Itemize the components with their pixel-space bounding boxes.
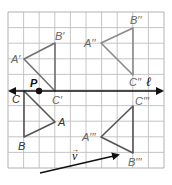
label-A-double-prime: A′′ bbox=[83, 37, 96, 49]
label-B: B bbox=[18, 140, 25, 152]
label-C-double-prime: C′′ bbox=[129, 76, 142, 88]
label-C-prime: C′ bbox=[52, 94, 63, 106]
transformation-diagram: ℓ P v → A B C A′ B′ C′ A′′ B′′ C′′ A′′′ … bbox=[0, 0, 172, 185]
label-C-triple-prime: C′′′ bbox=[135, 95, 150, 107]
label-A: A bbox=[57, 116, 65, 128]
label-B-triple-prime: B′′′ bbox=[128, 156, 142, 168]
label-B-double-prime: B′′ bbox=[130, 14, 142, 26]
coordinate-grid bbox=[8, 12, 164, 168]
label-A-triple-prime: A′′′ bbox=[81, 131, 96, 143]
vector-arrow-glyph: → bbox=[71, 145, 79, 154]
label-B-prime: B′ bbox=[55, 30, 65, 42]
point-p-label: P bbox=[30, 77, 38, 89]
label-C: C bbox=[12, 93, 20, 105]
translation-vector-v bbox=[40, 155, 118, 173]
label-A-prime: A′ bbox=[10, 53, 21, 65]
line-l-label: ℓ bbox=[146, 74, 152, 89]
